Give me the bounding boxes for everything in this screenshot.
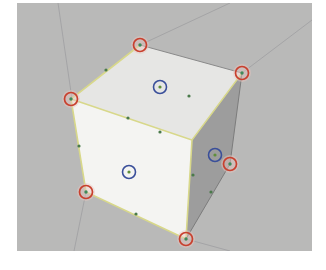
vertex-dot xyxy=(240,71,243,74)
vertex-dot xyxy=(69,97,72,100)
vertex-marker[interactable] xyxy=(233,64,251,82)
vertex-marker[interactable] xyxy=(131,36,149,54)
vertex-marker[interactable] xyxy=(77,183,95,201)
grid-line xyxy=(74,192,86,251)
center-dot xyxy=(213,153,216,156)
vertex-dot xyxy=(228,162,231,165)
grid-line xyxy=(242,20,312,73)
edge-midpoint-dot[interactable] xyxy=(158,130,161,133)
edge-midpoint-dot[interactable] xyxy=(191,173,194,176)
vertex-dot xyxy=(138,43,141,46)
vertex-dot xyxy=(184,237,187,240)
grid-line xyxy=(58,3,72,99)
edge-midpoint-dot[interactable] xyxy=(104,68,107,71)
edge-midpoint-dot[interactable] xyxy=(126,116,129,119)
vertex-marker[interactable] xyxy=(221,155,239,173)
edge-midpoint-dot[interactable] xyxy=(187,94,190,97)
center-dot xyxy=(158,85,161,88)
edge-midpoint-dot[interactable] xyxy=(77,144,80,147)
center-dot xyxy=(127,170,130,173)
vertex-marker[interactable] xyxy=(62,90,80,108)
3d-viewport[interactable] xyxy=(17,3,312,251)
edge-midpoint-dot[interactable] xyxy=(134,212,137,215)
edge-midpoint-dot[interactable] xyxy=(209,190,212,193)
grid-line xyxy=(140,3,230,45)
vertex-marker[interactable] xyxy=(177,230,195,248)
vertex-dot xyxy=(84,190,87,193)
cube-scene[interactable] xyxy=(17,3,312,251)
cube-faces[interactable] xyxy=(71,45,242,239)
